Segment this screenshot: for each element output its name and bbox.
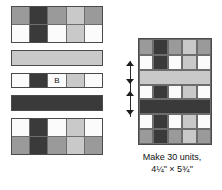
dimension-line <box>130 61 131 117</box>
block-cell <box>182 114 196 129</box>
unit-column <box>67 7 85 42</box>
block-cell <box>139 39 153 55</box>
block-cell <box>168 39 182 55</box>
block-cell <box>197 85 211 99</box>
unit-cell-bottom <box>30 137 47 154</box>
block-cell <box>139 114 153 129</box>
block-row-4 <box>139 85 211 99</box>
block-cell <box>153 129 167 144</box>
block-row-2 <box>139 55 211 71</box>
caption-line-1: Make 30 units, <box>122 151 222 163</box>
block-cell <box>182 85 196 99</box>
block-cell <box>168 114 182 129</box>
unit-cell-bottom <box>48 25 65 42</box>
unit-cell-bottom <box>67 25 84 42</box>
unit-cell-top <box>30 7 47 25</box>
strip-cell-labeled-b: B <box>48 74 66 87</box>
block-cell <box>139 85 153 99</box>
caption-line-2: 4¼" × 5¾" <box>122 163 222 175</box>
unit-cell-bottom <box>85 137 102 154</box>
dark-gray-sashing-strip <box>11 95 103 111</box>
unit-cell-top <box>67 7 84 25</box>
block-cell <box>153 114 167 129</box>
unit-column <box>30 119 48 154</box>
block-row-1 <box>139 39 211 55</box>
block-cell <box>168 85 182 99</box>
strip-cell <box>12 74 30 87</box>
strip-cell <box>67 74 85 87</box>
unit-column <box>30 7 48 42</box>
block-cell <box>153 55 167 71</box>
strip-cell <box>85 74 102 87</box>
unit-cell-bottom <box>85 25 102 42</box>
block-cell <box>197 39 211 55</box>
height-dimension-arrows <box>126 61 136 117</box>
dimension-arrow-down-icon <box>126 79 134 84</box>
block-cell <box>182 39 196 55</box>
unit-cell-bottom <box>30 25 47 42</box>
dimension-arrow-up-icon <box>126 91 134 96</box>
unit-cell-bottom <box>12 25 29 42</box>
unit-column <box>12 7 30 42</box>
unit-cell-top <box>12 7 29 25</box>
four-patch-unit-top <box>11 6 103 43</box>
block-row-3 <box>139 70 211 85</box>
block-cell <box>197 55 211 71</box>
block-row-6 <box>139 114 211 129</box>
unit-column <box>85 119 102 154</box>
assembled-block <box>138 38 212 145</box>
unit-column <box>48 119 66 154</box>
block-cell <box>139 129 153 144</box>
unit-cell-top <box>85 119 102 137</box>
block-row-7 <box>139 129 211 144</box>
block-cell <box>168 55 182 71</box>
unit-cell-top <box>67 119 84 137</box>
unit-cell-bottom <box>12 137 29 154</box>
unit-cell-top <box>85 7 102 25</box>
unit-column <box>12 119 30 154</box>
dimension-arrow-up-icon <box>126 61 134 66</box>
strip-cell <box>30 74 48 87</box>
four-patch-unit-bottom <box>11 118 103 155</box>
dimension-arrow-down-icon <box>126 110 134 115</box>
block-cell <box>153 39 167 55</box>
unit-column <box>67 119 85 154</box>
block-cell <box>197 129 211 144</box>
unit-cell-bottom <box>48 137 65 154</box>
block-cell <box>182 55 196 71</box>
unit-cell-bottom <box>67 137 84 154</box>
label-b: B <box>54 77 59 85</box>
unit-cell-top <box>30 119 47 137</box>
pieced-strip-b: B <box>11 73 103 88</box>
unit-cell-top <box>12 119 29 137</box>
unit-cell-top <box>48 7 65 25</box>
figure-canvas: B Make 30 units, 4¼" × 5¾" <box>0 0 222 190</box>
block-cell <box>197 114 211 129</box>
light-gray-sashing-strip <box>11 50 103 66</box>
unit-cell-top <box>48 119 65 137</box>
caption: Make 30 units, 4¼" × 5¾" <box>122 151 222 175</box>
block-cell <box>153 85 167 99</box>
block-cell <box>168 129 182 144</box>
unit-column <box>48 7 66 42</box>
block-cell <box>182 129 196 144</box>
unit-column <box>85 7 102 42</box>
block-row-5 <box>139 99 211 114</box>
block-cell <box>139 55 153 71</box>
